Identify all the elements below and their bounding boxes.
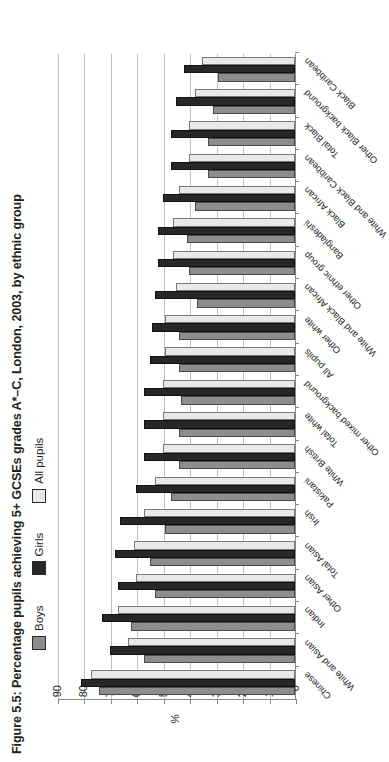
bar-all-pupils [118,606,295,614]
bar-all-pupils [136,574,295,582]
bar-all-pupils [202,57,295,65]
bar-boys [179,364,295,372]
bar-all-pupils [144,509,295,517]
bar-boys [179,332,295,340]
bar-all-pupils [189,154,295,162]
bar-boys [165,525,295,533]
bar-girls [152,323,295,331]
category-tick [295,569,299,570]
legend-label: Boys [33,605,45,631]
category-tick [295,666,299,667]
bar-boys [131,622,295,630]
category-label: Indian [302,605,327,630]
category-tick [295,504,299,505]
bar-boys [171,493,295,501]
legend-swatch-boys [32,636,46,650]
bar-girls [184,65,295,73]
bar-boys [179,461,295,469]
bar-boys [155,590,295,598]
bar-girls [158,259,296,267]
bar-girls [144,453,295,461]
category-label: All pupils [302,347,335,380]
gridline [217,54,218,699]
category-label: Chinese [302,670,333,701]
category-tick [295,117,299,118]
bar-girls [118,582,295,590]
bar-all-pupils [173,251,295,259]
gridline [270,54,271,699]
bar-girls [81,679,295,687]
bar-boys [197,299,295,307]
category-label: Other ethnic group [302,250,364,312]
bar-girls [110,646,295,654]
category-tick [295,278,299,279]
bar-girls [120,517,295,525]
chart-legend: BoysGirlsAll pupils [32,438,46,650]
axis-tick-label: 90 [51,685,63,709]
bar-girls [176,97,295,105]
bar-girls [150,356,295,364]
legend-item-all-pupils: All pupils [32,438,46,503]
bar-girls [144,420,295,428]
figure-title: Figure 5.5: Percentage pupils achieving … [10,194,24,754]
legend-item-girls: Girls [32,533,46,576]
bar-boys [208,138,295,146]
legend-swatch-girls [32,561,46,575]
bar-boys [218,73,295,81]
bar-girls [163,194,295,202]
category-tick [295,310,299,311]
bar-boys [179,429,295,437]
bar-all-pupils [163,412,295,420]
category-tick [295,246,299,247]
category-tick [295,601,299,602]
gridline [243,54,244,699]
bar-all-pupils [163,444,295,452]
bar-all-pupils [128,638,295,646]
category-tick [295,537,299,538]
bar-all-pupils [163,380,295,388]
legend-label: All pupils [33,438,45,484]
legend-label: Girls [33,533,45,557]
category-tick [295,214,299,215]
category-tick [295,181,299,182]
bar-boys [144,655,295,663]
category-tick [295,149,299,150]
legend-item-boys: Boys [32,605,46,650]
bar-girls [155,291,295,299]
bar-boys [99,687,295,695]
category-tick [295,52,299,53]
bar-boys [213,106,295,114]
bar-girls [102,614,295,622]
category-tick [295,440,299,441]
bar-all-pupils [91,671,295,679]
category-tick [295,375,299,376]
bar-girls [115,550,295,558]
bar-all-pupils [179,186,295,194]
bar-all-pupils [195,89,295,97]
bar-all-pupils [189,121,295,129]
gridline [164,54,165,699]
bar-all-pupils [165,348,295,356]
category-label: Irish [302,508,322,528]
bar-boys [181,396,295,404]
bar-all-pupils [134,541,295,549]
value-axis-title: % [169,714,181,724]
bar-all-pupils [176,283,295,291]
gridline [111,54,112,699]
bar-boys [208,170,295,178]
bar-girls [171,130,295,138]
plot-area: 0102030405060708090ChineseWhite and Asia… [58,54,296,700]
axis-tick-label: 80 [77,685,89,709]
gridline [190,54,191,699]
gridline [137,54,138,699]
category-tick [295,343,299,344]
bar-boys [189,267,295,275]
bar-all-pupils [155,477,295,485]
bar-girls [158,227,296,235]
bar-girls [171,162,295,170]
gridline [84,54,85,699]
gridline [58,54,59,699]
category-tick [295,84,299,85]
bar-all-pupils [173,218,295,226]
